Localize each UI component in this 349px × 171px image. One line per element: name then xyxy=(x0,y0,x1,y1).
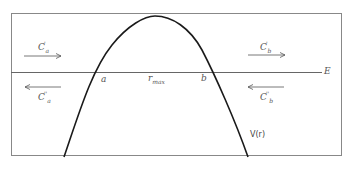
arrow-left-incoming xyxy=(24,54,61,59)
label-cb-doubleprime: C''b xyxy=(260,91,273,104)
label-sub: max xyxy=(152,78,165,85)
turning-point-b: b xyxy=(201,74,207,83)
label-cb-prime: C'b xyxy=(260,41,271,54)
arrow-right-outgoing xyxy=(248,85,284,90)
label-ca-doubleprime: C''a xyxy=(38,91,51,104)
peak-label-rmax: rmax xyxy=(148,74,165,85)
curve-label: V(r) xyxy=(250,131,265,139)
diagram-canvas xyxy=(0,0,349,171)
turning-point-a: a xyxy=(101,75,106,84)
frame-box xyxy=(12,14,342,156)
energy-label: E xyxy=(324,67,331,76)
arrow-left-outgoing xyxy=(25,85,61,90)
potential-curve xyxy=(64,16,248,157)
label-sub: b xyxy=(268,47,272,54)
label-ca-prime: C'a xyxy=(38,41,49,54)
label-sub: a xyxy=(47,97,51,104)
label-sub: a xyxy=(46,47,50,54)
label-sub: b xyxy=(269,97,273,104)
